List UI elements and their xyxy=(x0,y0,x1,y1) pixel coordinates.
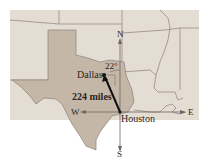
label-houston: Houston xyxy=(121,114,155,124)
label-east: E xyxy=(188,108,194,117)
label-dallas: Dallas xyxy=(77,70,103,80)
label-north: N xyxy=(117,30,124,39)
map-diagram: N S W E Dallas Houston 224 miles 22° xyxy=(0,0,199,159)
label-angle: 22° xyxy=(105,62,118,71)
label-distance: 224 miles xyxy=(72,92,112,102)
label-west: W xyxy=(71,108,80,117)
label-south: S xyxy=(117,150,122,159)
